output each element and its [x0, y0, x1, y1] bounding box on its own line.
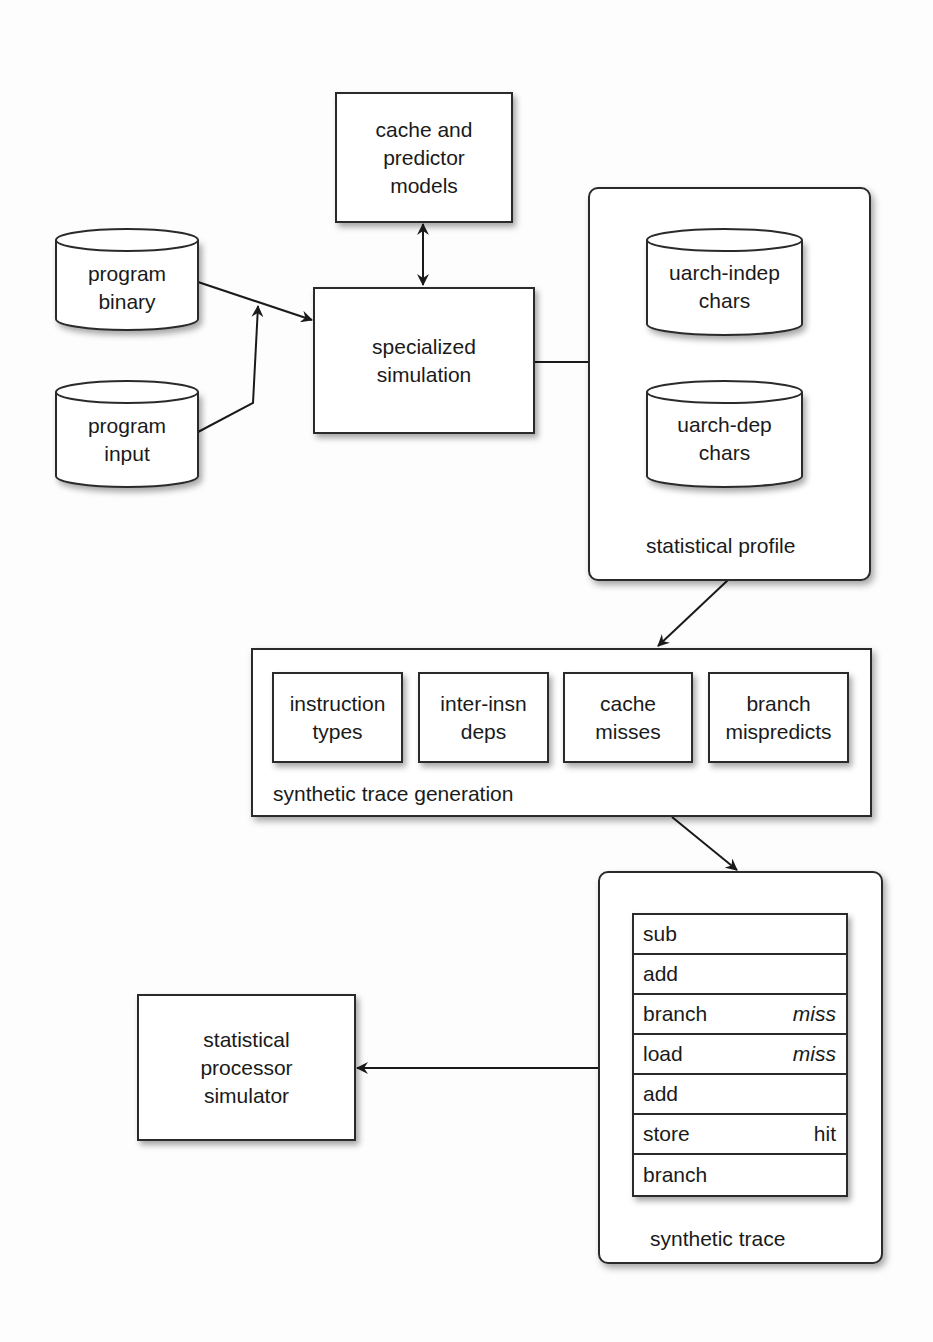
- trace-insn: branch: [643, 1163, 707, 1187]
- statistical-profile-caption: statistical profile: [646, 534, 795, 558]
- trace-insn: store: [643, 1122, 690, 1146]
- synthetic-trace-table: sub add branch miss load miss add store …: [632, 913, 848, 1197]
- program-binary-cylinder: program binary: [55, 228, 199, 331]
- edge-generation-to-trace: [672, 817, 737, 870]
- trace-insn: sub: [643, 922, 677, 946]
- synthetic-trace-caption: synthetic trace: [650, 1227, 785, 1251]
- specialized-simulation-box: specialized simulation: [313, 287, 535, 434]
- trace-status: miss: [793, 1002, 836, 1026]
- edge-binary-to-sim: [198, 282, 312, 320]
- program-binary-label: program binary: [55, 260, 199, 316]
- component-branch-mispredicts: branch mispredicts: [708, 672, 849, 763]
- trace-row: sub: [634, 915, 846, 955]
- edge-profile-to-generation: [658, 580, 728, 646]
- edge-input-to-sim: [198, 306, 258, 432]
- trace-row: branch: [634, 1155, 846, 1195]
- trace-status: hit: [814, 1122, 836, 1146]
- component-label: cache misses: [595, 690, 660, 746]
- trace-row: branch miss: [634, 995, 846, 1035]
- trace-row: store hit: [634, 1115, 846, 1155]
- component-instruction-types: instruction types: [272, 672, 403, 763]
- cache-predictor-models-label: cache and predictor models: [376, 116, 473, 200]
- component-label: branch mispredicts: [725, 690, 831, 746]
- cache-predictor-models-box: cache and predictor models: [335, 92, 513, 223]
- trace-generation-caption: synthetic trace generation: [273, 782, 513, 806]
- program-input-cylinder: program input: [55, 380, 199, 488]
- uarch-dep-cylinder: uarch-dep chars: [646, 380, 803, 488]
- program-input-label: program input: [55, 412, 199, 468]
- component-inter-insn-deps: inter-insn deps: [418, 672, 549, 763]
- uarch-indep-label: uarch-indep chars: [646, 259, 803, 315]
- diagram-canvas: cache and predictor models program binar…: [0, 0, 933, 1342]
- trace-row: add: [634, 1075, 846, 1115]
- trace-row: load miss: [634, 1035, 846, 1075]
- trace-insn: load: [643, 1042, 683, 1066]
- trace-insn: branch: [643, 1002, 707, 1026]
- component-label: inter-insn deps: [440, 690, 526, 746]
- uarch-dep-label: uarch-dep chars: [646, 411, 803, 467]
- trace-insn: add: [643, 1082, 678, 1106]
- specialized-simulation-label: specialized simulation: [372, 333, 476, 389]
- trace-row: add: [634, 955, 846, 995]
- statistical-processor-simulator-box: statistical processor simulator: [137, 994, 356, 1141]
- component-label: instruction types: [290, 690, 386, 746]
- statistical-processor-simulator-label: statistical processor simulator: [200, 1026, 292, 1110]
- uarch-indep-cylinder: uarch-indep chars: [646, 228, 803, 336]
- component-cache-misses: cache misses: [563, 672, 693, 763]
- trace-insn: add: [643, 962, 678, 986]
- trace-status: miss: [793, 1042, 836, 1066]
